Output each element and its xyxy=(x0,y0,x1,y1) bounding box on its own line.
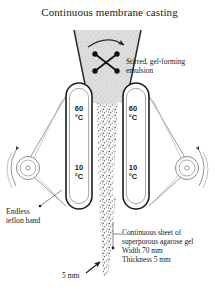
temperature-right-hot-unit: °C xyxy=(124,113,142,122)
belt-loop-right xyxy=(123,83,149,209)
teflon-band-left xyxy=(24,96,66,206)
stirred-emulsion-label-line2: emulsion xyxy=(126,67,214,76)
temperature-left-hot-unit: °C xyxy=(70,113,88,122)
gel-sheet-thickness-label: Thickness 5 mm xyxy=(122,256,214,265)
belt-loop-left xyxy=(66,83,92,209)
temperature-right-cold: 10 xyxy=(124,163,142,172)
temperature-right-cold-unit: °C xyxy=(124,172,142,181)
temperature-left-cold: 10 xyxy=(70,163,88,172)
page-title: Continuous membrane casting xyxy=(22,6,197,19)
temperature-right-hot: 60 xyxy=(124,104,142,113)
gap-dimension-label: 5 mm xyxy=(62,272,80,281)
teflon-band-label-line2: teflon band xyxy=(6,217,62,226)
membrane-casting-diagram: Continuous membrane casting Stirred, gel… xyxy=(0,0,215,293)
temperature-left-hot: 60 xyxy=(70,104,88,113)
teflon-band-right xyxy=(149,96,191,206)
temperature-left-cold-unit: °C xyxy=(70,172,88,181)
